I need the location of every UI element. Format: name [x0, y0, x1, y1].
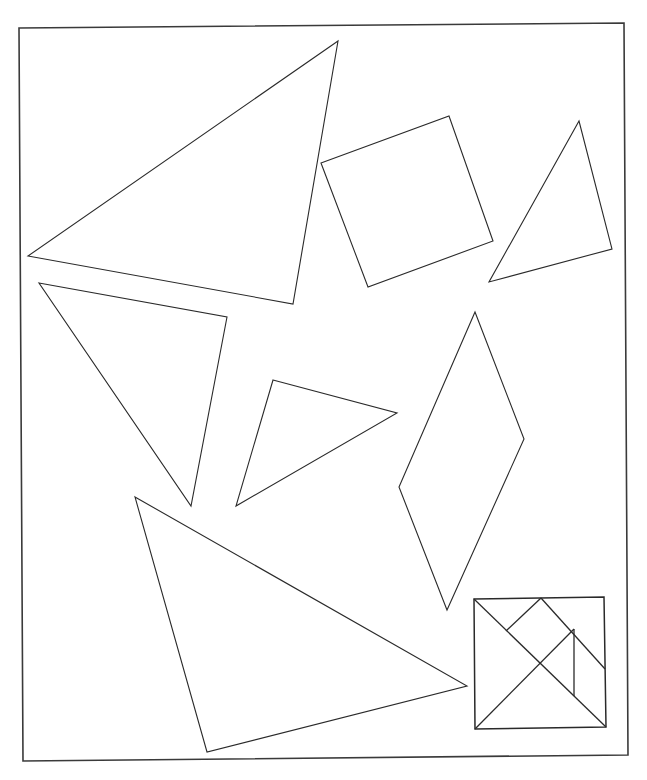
tangram-worksheet — [0, 0, 647, 780]
